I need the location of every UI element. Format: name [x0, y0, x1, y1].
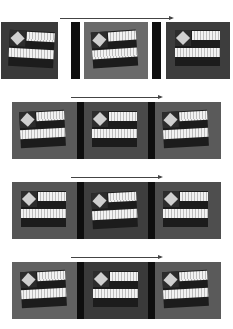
time-direction-arrow [71, 257, 161, 258]
flag-stripe [192, 31, 220, 40]
flag-image [163, 191, 208, 227]
frame-panel [12, 182, 77, 239]
flag-stripe [21, 209, 66, 218]
frame-separator [148, 262, 155, 319]
diamond-icon [164, 192, 178, 206]
flag-canton [91, 31, 108, 48]
frame-panel [12, 262, 77, 319]
flag-stripe [175, 48, 220, 57]
flag-image [175, 30, 220, 66]
flag-stripe [9, 48, 54, 59]
time-direction-arrow [71, 97, 161, 98]
flag-canton [91, 192, 108, 209]
flag-stripe [108, 30, 137, 41]
flag-stripe [20, 128, 65, 139]
flag-image [91, 29, 138, 68]
frame-separator [77, 102, 84, 159]
frame-separator [77, 262, 84, 319]
flag-image [92, 111, 137, 147]
flag-canton [175, 30, 191, 46]
frame-separator [148, 182, 155, 239]
diamond-icon [92, 194, 106, 208]
frame-panel [166, 22, 230, 79]
diamond-icon [22, 192, 36, 206]
flag-stripe [179, 271, 207, 281]
diamond-icon [176, 31, 190, 45]
flag-canton [93, 271, 109, 287]
frame-separator [77, 182, 84, 239]
flag-image [93, 271, 138, 307]
frame-panel [1, 22, 58, 79]
diamond-icon [93, 112, 107, 126]
frame-panel [12, 102, 77, 159]
flag-canton [162, 111, 179, 128]
frame-panel [155, 182, 221, 239]
flag-image [19, 110, 66, 148]
flag-stripe [37, 271, 65, 281]
flag-image [21, 191, 66, 227]
flag-stripe [163, 209, 208, 218]
diamond-icon [10, 31, 24, 45]
flag-stripe [163, 128, 208, 139]
flag-canton [19, 111, 36, 128]
flag-image [20, 270, 67, 308]
flag-stripe [93, 289, 138, 298]
flag-stripe [110, 272, 138, 281]
flag-stripe [108, 192, 136, 202]
flag-stripe [180, 192, 208, 201]
diamond-icon [163, 273, 177, 287]
flag-stripe [21, 288, 66, 299]
diamond-icon [94, 272, 108, 286]
flag-canton [20, 271, 37, 288]
time-direction-arrow [71, 177, 161, 178]
flag-canton [163, 191, 179, 207]
frame-panel [84, 22, 148, 79]
diamond-icon [92, 33, 106, 47]
diamond-icon [20, 113, 34, 127]
flag-canton [92, 111, 108, 127]
frame-panel [155, 102, 221, 159]
flag-stripe [92, 129, 137, 138]
frame-separator [71, 22, 80, 79]
flag-canton [162, 271, 179, 288]
diamond-icon [21, 273, 35, 287]
flag-stripe [38, 192, 66, 201]
flag-canton [9, 30, 26, 47]
flag-stripe [163, 288, 208, 299]
flag-stripe [179, 111, 207, 121]
flag-image [162, 270, 209, 308]
flag-canton [21, 191, 37, 207]
time-direction-arrow [60, 18, 172, 19]
flag-image [8, 30, 55, 68]
flag-image [91, 191, 138, 229]
flag-stripe [109, 112, 137, 121]
flag-stripe [36, 111, 64, 121]
frame-panel [84, 102, 148, 159]
flag-stripe [92, 209, 137, 220]
frame-separator [148, 102, 155, 159]
flag-stripe [26, 32, 54, 42]
frame-separator [152, 22, 161, 79]
frame-panel [84, 262, 148, 319]
flag-stripe [92, 47, 138, 59]
diamond-icon [163, 113, 177, 127]
frame-panel [84, 182, 148, 239]
frame-panel [155, 262, 221, 319]
flag-image [162, 110, 209, 148]
